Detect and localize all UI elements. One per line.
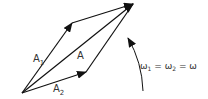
label-a2: A2 xyxy=(53,83,64,97)
label-a: A xyxy=(77,50,84,61)
vector-a1 xyxy=(22,23,72,93)
parallelogram-top-edge xyxy=(72,4,133,23)
angular-frequency-equation: ω1 = ω2 = ω xyxy=(140,61,197,72)
phasor-diagram: A1 A A2 ω1 = ω2 = ω xyxy=(0,0,208,99)
vector-a-resultant xyxy=(22,4,133,93)
label-a1: A1 xyxy=(33,53,44,67)
parallelogram-right-edge xyxy=(86,4,133,72)
